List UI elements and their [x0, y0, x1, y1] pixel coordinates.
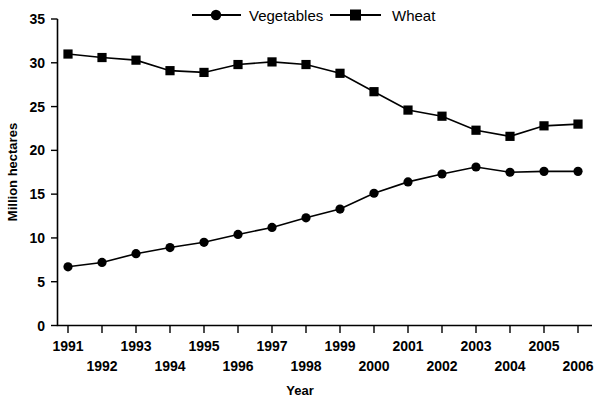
y-tick-label: 20: [29, 142, 45, 158]
data-point-marker: [539, 167, 548, 176]
y-tick-label: 30: [29, 55, 45, 71]
data-point-marker: [97, 53, 106, 62]
series-line-wheat: [68, 54, 578, 136]
y-tick-label: 35: [29, 11, 45, 27]
data-point-marker: [505, 132, 514, 141]
legend-label-vegetables: Vegetables: [249, 7, 323, 24]
chart-canvas: Vegetables Wheat 05101520253035 19911992…: [0, 0, 601, 404]
x-tick-label: 2005: [528, 338, 559, 354]
legend-label-wheat: Wheat: [392, 7, 436, 24]
y-tick-label: 15: [29, 186, 45, 202]
data-point-marker: [199, 68, 208, 77]
data-point-marker: [471, 162, 480, 171]
data-point-marker: [335, 204, 344, 213]
data-point-marker: [233, 60, 242, 69]
x-tick-label: 1999: [324, 338, 355, 354]
x-tick-label: 2004: [494, 358, 525, 374]
legend-item-vegetables: Vegetables: [192, 7, 323, 24]
x-tick-label: 1997: [256, 338, 287, 354]
line-chart: Vegetables Wheat 05101520253035 19911992…: [0, 0, 601, 404]
square-marker-icon: [350, 10, 361, 21]
data-point-marker: [131, 56, 140, 65]
data-point-marker: [437, 169, 446, 178]
data-point-marker: [63, 49, 72, 58]
x-tick-label: 1994: [154, 358, 185, 374]
data-point-marker: [573, 167, 582, 176]
data-point-marker: [437, 112, 446, 121]
x-tick-label: 1992: [86, 358, 117, 374]
x-tick-label: 2000: [358, 358, 389, 374]
data-point-marker: [301, 60, 310, 69]
x-tick-label: 2006: [562, 358, 593, 374]
y-tick-label: 0: [37, 318, 45, 334]
x-tick-label: 2003: [460, 338, 491, 354]
data-point-marker: [369, 189, 378, 198]
series-wheat: [63, 49, 582, 141]
x-tick-label: 1995: [188, 338, 219, 354]
data-point-marker: [539, 121, 548, 130]
x-tick-label: 2001: [392, 338, 423, 354]
data-point-marker: [403, 177, 412, 186]
chart-legend: Vegetables Wheat: [192, 7, 436, 24]
data-point-marker: [369, 87, 378, 96]
circle-marker-icon: [211, 10, 221, 20]
data-point-marker: [199, 238, 208, 247]
x-tick-label: 1998: [290, 358, 321, 374]
data-point-marker: [403, 105, 412, 114]
data-point-marker: [471, 126, 480, 135]
y-axis-title: Million hectares: [5, 123, 20, 221]
data-point-marker: [97, 258, 106, 267]
data-series-group: [63, 49, 582, 271]
x-tick-label: 1993: [120, 338, 151, 354]
y-axis: 05101520253035: [29, 11, 57, 334]
x-axis: [68, 326, 578, 334]
y-tick-label: 25: [29, 99, 45, 115]
data-point-marker: [165, 66, 174, 75]
series-line-vegetables: [68, 167, 578, 267]
y-tick-label: 10: [29, 230, 45, 246]
data-point-marker: [267, 57, 276, 66]
data-point-marker: [267, 223, 276, 232]
series-vegetables: [63, 162, 582, 271]
x-tick-label: 1991: [52, 338, 83, 354]
y-tick-label: 5: [37, 274, 45, 290]
data-point-marker: [573, 119, 582, 128]
x-tick-label: 2002: [426, 358, 457, 374]
x-tick-labels: 1991199219931994199519961997199819992000…: [52, 338, 593, 374]
x-axis-title: Year: [286, 383, 313, 398]
data-point-marker: [505, 168, 514, 177]
data-point-marker: [63, 262, 72, 271]
x-tick-label: 1996: [222, 358, 253, 374]
data-point-marker: [335, 69, 344, 78]
data-point-marker: [131, 249, 140, 258]
data-point-marker: [301, 213, 310, 222]
data-point-marker: [165, 243, 174, 252]
data-point-marker: [233, 230, 242, 239]
legend-item-wheat: Wheat: [330, 7, 436, 24]
